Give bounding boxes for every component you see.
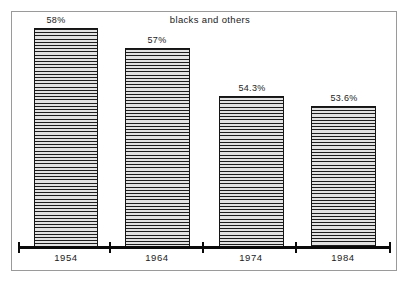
bar-1964[interactable]: [125, 48, 190, 248]
x-axis-tick-start: [18, 242, 20, 253]
bar-value-label-1974: 54.3%: [222, 83, 282, 93]
bar-1974[interactable]: [219, 96, 284, 248]
bar-chart-figure: blacks and others 58% 1954 57% 1964 54.3…: [0, 0, 408, 283]
chart-title: blacks and others: [150, 14, 270, 25]
bar-value-label-1964: 57%: [129, 35, 185, 45]
x-axis-label-1974: 1974: [221, 252, 281, 263]
x-axis-label-1954: 1954: [36, 252, 96, 263]
x-axis-line: [18, 246, 391, 249]
bar-value-label-1984: 53.6%: [314, 93, 374, 103]
x-axis-tick-end: [389, 242, 391, 253]
bar-value-label-1954: 58%: [28, 15, 84, 25]
x-axis-tick-3: [295, 242, 297, 253]
x-axis-label-1964: 1964: [127, 252, 187, 263]
bar-1954[interactable]: [34, 28, 98, 248]
x-axis-tick-1: [109, 242, 111, 253]
x-axis-tick-2: [202, 242, 204, 253]
plot-area: blacks and others 58% 1954 57% 1964 54.3…: [0, 0, 408, 283]
x-axis-label-1984: 1984: [313, 252, 373, 263]
bar-1984[interactable]: [311, 106, 376, 248]
